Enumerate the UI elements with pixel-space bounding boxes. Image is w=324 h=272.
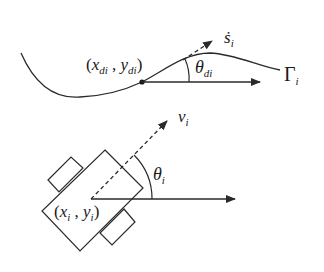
- paren-close: ): [94, 202, 100, 221]
- robot-position-label: (xi , yi): [54, 203, 99, 223]
- x-subscript: di: [99, 64, 108, 76]
- separator: ,: [70, 202, 83, 221]
- theta-subscript: di: [204, 67, 213, 79]
- v-symbol: v: [178, 107, 186, 126]
- theta-i-label: θi: [153, 165, 165, 186]
- gamma-symbol: Γ: [284, 63, 296, 85]
- path-label: Γi: [284, 64, 299, 87]
- theta-di-arc: [185, 59, 189, 82]
- v-subscript: i: [186, 116, 189, 128]
- y-symbol: y: [121, 55, 129, 74]
- separator: ,: [108, 55, 121, 74]
- theta-subscript: i: [162, 174, 165, 186]
- y-subscript: di: [128, 64, 137, 76]
- desired-path-curve: [21, 53, 280, 97]
- gamma-subscript: i: [296, 75, 299, 87]
- kinematics-diagram: [0, 0, 324, 272]
- s-dot-symbol: ṡ: [224, 28, 231, 47]
- paren-close: ): [137, 55, 143, 74]
- velocity-label: vi: [178, 108, 189, 128]
- theta-di-label: θdi: [195, 58, 212, 79]
- desired-point-label: (xdi , ydi): [86, 56, 142, 76]
- y-symbol: y: [83, 202, 91, 221]
- robot-body: [42, 150, 143, 251]
- tangent-label: ṡi: [224, 29, 234, 49]
- theta-symbol: θ: [195, 57, 204, 77]
- s-dot-subscript: i: [231, 37, 234, 49]
- theta-symbol: θ: [153, 164, 162, 184]
